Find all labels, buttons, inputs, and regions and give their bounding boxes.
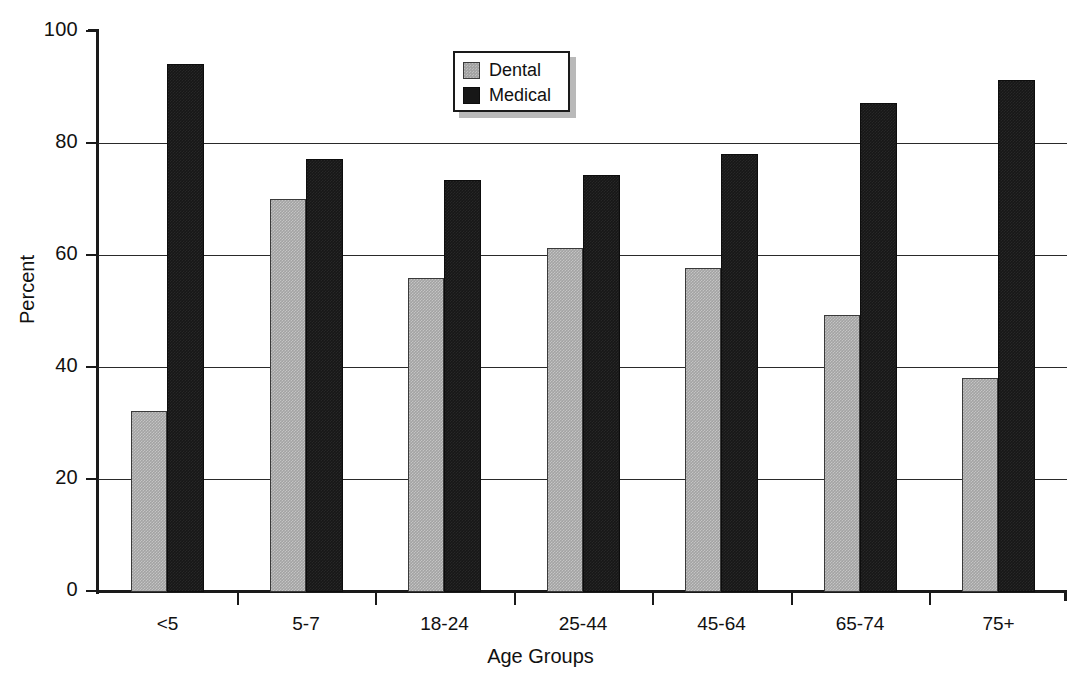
bar-dental <box>131 411 167 592</box>
bar-dental <box>685 268 721 592</box>
legend-label-dental: Dental <box>489 60 541 81</box>
x-tick-label: 75+ <box>944 613 1054 635</box>
x-tick-label: 18-24 <box>390 613 500 635</box>
bar-medical <box>860 103 897 592</box>
x-tick-label: 5-7 <box>251 613 361 635</box>
x-tick-mark <box>514 593 516 605</box>
bar-medical <box>444 180 481 592</box>
x-axis-title: Age Groups <box>0 645 1081 668</box>
y-tick-label: 80 <box>55 130 78 153</box>
x-tick-label: 65-74 <box>805 613 915 635</box>
y-tick-label: 0 <box>67 578 78 601</box>
x-tick-label: 45-64 <box>667 613 777 635</box>
y-tick-label: 100 <box>44 18 78 41</box>
plot-area <box>97 31 1067 592</box>
legend-item-medical: Medical <box>463 83 568 108</box>
bar-dental <box>408 278 444 592</box>
y-tick-label: 60 <box>55 242 78 265</box>
x-tick-mark <box>791 593 793 605</box>
y-tick-label: 20 <box>55 466 78 489</box>
x-tick-label: 25-44 <box>528 613 638 635</box>
y-axis-title: Percent <box>16 220 39 360</box>
bar-medical <box>306 159 343 592</box>
y-tick-label: 40 <box>55 354 78 377</box>
bar-dental <box>547 248 583 592</box>
gray-swatch-icon <box>463 62 480 79</box>
legend-item-dental: Dental <box>463 58 568 83</box>
black-swatch-icon <box>463 87 480 104</box>
bar-chart: 020406080100 <55-718-2425-4445-6465-7475… <box>0 0 1081 676</box>
x-tick-mark <box>375 593 377 605</box>
bar-dental <box>824 315 860 592</box>
bar-medical <box>583 175 620 592</box>
x-tick-mark <box>652 593 654 605</box>
bar-dental <box>270 199 306 592</box>
x-tick-label: <5 <box>113 613 223 635</box>
bar-medical <box>998 80 1035 592</box>
x-tick-mark <box>237 593 239 605</box>
legend: Dental Medical <box>453 51 570 112</box>
bar-medical <box>721 154 758 592</box>
legend-label-medical: Medical <box>489 85 551 106</box>
x-tick-mark <box>929 593 931 605</box>
bar-dental <box>962 378 998 592</box>
bar-medical <box>167 64 204 592</box>
